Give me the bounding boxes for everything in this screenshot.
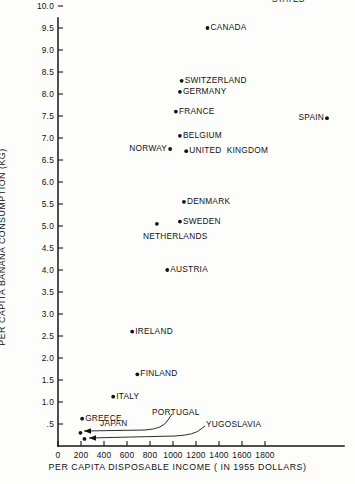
y-axis-title: PER CAPITA BANANA CONSUMPTION (KG)	[0, 148, 7, 345]
point-label-denmark: DENMARK	[187, 197, 230, 206]
point-label-belgium: BELGIUM	[183, 131, 222, 140]
point-label-norway: NORWAY	[129, 144, 167, 153]
y-tick-label: 8.0	[22, 89, 54, 99]
point-label-italy: ITALY	[116, 392, 139, 401]
data-point-norway	[168, 147, 172, 151]
data-point-sweden	[178, 220, 182, 224]
data-point-united-kingdom	[184, 149, 188, 153]
y-tick-label: .5	[22, 419, 54, 429]
point-label-ireland: IRELAND	[135, 327, 173, 336]
point-label-netherlands: NETHERLANDS	[143, 232, 208, 241]
y-tick-label: 5.5	[22, 199, 54, 209]
data-point-belgium	[178, 134, 182, 138]
y-tick-label: 9.5	[22, 23, 54, 33]
point-label-sweden: SWEDEN	[183, 217, 221, 226]
x-tick-label: 1400	[209, 450, 228, 460]
data-point-denmark	[182, 200, 186, 204]
data-point-germany	[178, 90, 182, 94]
x-tick-label: 200	[74, 450, 89, 460]
annotation-label-yugoslavia: YUGOSLAVIA	[206, 420, 261, 429]
x-tick-label: 1800	[255, 450, 274, 460]
data-point-canada	[206, 26, 210, 30]
y-tick-label: 5.0	[22, 221, 54, 231]
data-point-ireland	[130, 330, 134, 334]
annotation-label-japan: JAPAN	[100, 419, 127, 428]
point-label-united-states: UNITED STATES	[267, 0, 305, 4]
y-tick-label: 6.0	[22, 177, 54, 187]
y-tick-label: 1.0	[22, 397, 54, 407]
y-tick-label: 6.5	[22, 155, 54, 165]
data-point-switzerland	[180, 79, 184, 83]
y-tick-label: 8.5	[22, 67, 54, 77]
y-tick-label: 2.0	[22, 353, 54, 363]
annotation-label-portugal: PORTUGAL	[152, 408, 200, 417]
point-label-spain: SPAIN	[298, 113, 324, 122]
point-label-france: FRANCE	[179, 107, 215, 116]
data-point-austria	[165, 268, 169, 272]
y-tick-label: 1.5	[22, 375, 54, 385]
point-label-austria: AUSTRIA	[170, 265, 208, 274]
x-tick-label: 0	[56, 450, 61, 460]
point-label-finland: FINLAND	[140, 370, 177, 379]
point-label-united-kingdom: UNITED KINGDOM	[189, 146, 268, 155]
point-label-switzerland: SWITZERLAND	[185, 76, 247, 85]
point-label-canada: CANADA	[211, 23, 247, 32]
data-point-italy	[111, 395, 115, 399]
data-point-finland	[135, 372, 139, 376]
y-tick-label: 10.0	[22, 1, 54, 11]
x-tick-label: 400	[97, 450, 112, 460]
leader-arrow-yugoslavia	[89, 435, 96, 441]
data-point-greece	[80, 417, 84, 421]
scatter-plot-figure: .51.01.52.02.53.03.54.04.55.05.56.06.57.…	[0, 0, 355, 484]
x-tick-label: 800	[143, 450, 158, 460]
data-point-yugoslavia	[83, 437, 87, 441]
y-tick-label: 7.5	[22, 111, 54, 121]
y-tick-label: 9.0	[22, 45, 54, 55]
x-tick-label: 1000	[163, 450, 182, 460]
y-tick-label: 4.5	[22, 243, 54, 253]
point-label-germany: GERMANY	[183, 87, 227, 96]
x-tick-label: 1600	[232, 450, 251, 460]
data-point-portugal	[79, 431, 83, 435]
y-tick-label: 2.5	[22, 331, 54, 341]
x-axis-title: PER CAPITA DISPOSABLE INCOME ( IN 1955 D…	[0, 462, 355, 472]
y-tick-label: 3.0	[22, 309, 54, 319]
x-tick-label: 1200	[186, 450, 205, 460]
y-tick-label: 7.0	[22, 133, 54, 143]
x-tick-label: 600	[120, 450, 135, 460]
data-point-france	[174, 110, 178, 114]
data-point-netherlands	[155, 222, 159, 226]
data-point-spain	[325, 116, 329, 120]
leader-arrow-portugal	[84, 428, 91, 434]
y-tick-label: 4.0	[22, 265, 54, 275]
y-tick-label: 3.5	[22, 287, 54, 297]
